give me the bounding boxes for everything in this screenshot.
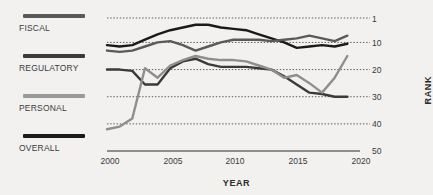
x-tick-2005: 2005 xyxy=(153,156,193,166)
legend-entry-personal[interactable]: PERSONAL xyxy=(18,94,98,114)
legend-swatch-personal xyxy=(23,94,85,98)
x-tick-2000: 2000 xyxy=(90,156,130,166)
y-tick-10: 10 xyxy=(372,38,381,48)
gridlines-group xyxy=(107,18,370,124)
legend-swatch-regulatory xyxy=(23,54,85,58)
legend-entry-regulatory[interactable]: REGULATORY xyxy=(18,54,98,74)
legend-label-personal: PERSONAL xyxy=(18,103,98,114)
legend-swatch-overall xyxy=(23,134,85,138)
y-tick-1: 1 xyxy=(372,14,377,24)
legend-label-overall: OVERALL xyxy=(18,143,98,154)
y-tick-20: 20 xyxy=(372,65,381,75)
x-tick-2020: 2020 xyxy=(341,156,381,166)
y-axis-title: RANK xyxy=(423,76,433,104)
series-line-fiscal[interactable] xyxy=(107,36,347,52)
y-tick-30: 30 xyxy=(372,92,381,102)
legend-swatch-fiscal xyxy=(23,14,85,18)
legend-entry-fiscal[interactable]: FISCAL xyxy=(18,14,98,34)
x-axis-title: YEAR xyxy=(0,178,425,188)
legend-label-fiscal: FISCAL xyxy=(18,23,98,34)
chart-legend: FISCAL REGULATORY PERSONAL OVERALL xyxy=(18,14,98,160)
x-tick-2010: 2010 xyxy=(215,156,255,166)
y-tick-50: 50 xyxy=(372,146,381,156)
legend-label-regulatory: REGULATORY xyxy=(18,63,98,74)
x-tick-2015: 2015 xyxy=(278,156,318,166)
legend-entry-overall[interactable]: OVERALL xyxy=(18,134,98,154)
y-tick-40: 40 xyxy=(372,119,381,129)
series-lines-group xyxy=(107,25,347,130)
